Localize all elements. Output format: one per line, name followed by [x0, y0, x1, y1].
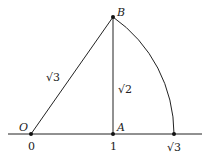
- point-b: [111, 15, 115, 19]
- label-ab-length: √2: [118, 83, 132, 96]
- point-root3: [172, 132, 176, 136]
- label-b: B: [116, 6, 125, 19]
- tick-0: 0: [28, 140, 35, 153]
- arc-b-to-root3: [113, 17, 174, 134]
- label-a: A: [116, 121, 125, 134]
- label-ob-length: √3: [46, 71, 60, 84]
- tick-1: 1: [110, 140, 117, 153]
- point-a: [111, 132, 115, 136]
- segment-ob: [31, 17, 113, 134]
- number-line-diagram: O A B 0 1 √3 √3 √2: [0, 0, 204, 162]
- point-o: [29, 132, 33, 136]
- label-o: O: [19, 121, 28, 134]
- tick-root3: √3: [167, 141, 181, 154]
